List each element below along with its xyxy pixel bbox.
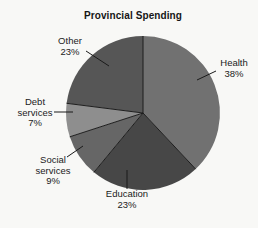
label-health-name: Health xyxy=(212,58,256,69)
label-debt-services-pct: 7% xyxy=(11,118,59,129)
label-education: Education 23% xyxy=(96,189,158,210)
label-health-pct: 38% xyxy=(212,69,256,80)
label-education-name: Education xyxy=(96,189,158,200)
label-other: Other 23% xyxy=(48,36,92,57)
label-social-services: Social services 9% xyxy=(28,155,78,187)
label-other-pct: 23% xyxy=(48,47,92,58)
pie-chart-figure: Provincial Spending Health 38% Education… xyxy=(0,0,258,228)
label-social-services-name: Social services xyxy=(28,155,78,176)
label-health: Health 38% xyxy=(212,58,256,79)
label-debt-services-name: Debt services xyxy=(11,97,59,118)
label-social-services-pct: 9% xyxy=(28,176,78,187)
label-education-pct: 23% xyxy=(96,200,158,211)
chart-title: Provincial Spending xyxy=(84,10,182,21)
label-debt-services: Debt services 7% xyxy=(11,97,59,129)
label-other-name: Other xyxy=(48,36,92,47)
